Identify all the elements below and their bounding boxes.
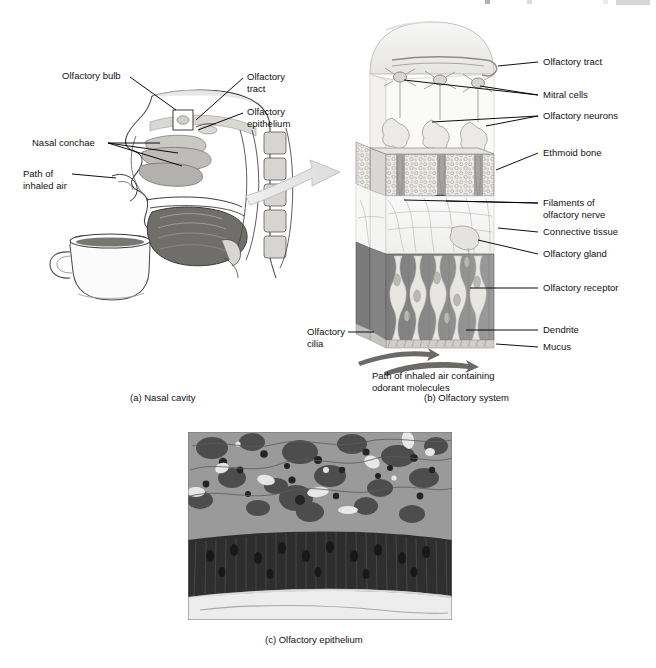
airflow-note: Path of inhaled air containing odorant m…: [372, 370, 495, 393]
label-olfactory-tract-b: Olfactory tract: [543, 56, 602, 68]
olfactory-figure: Olfactory bulb Olfactory tract Olfactory…: [0, 0, 656, 668]
label-mitral-cells: Mitral cells: [543, 89, 588, 101]
label-path-of-inhaled-air: Path of inhaled air: [23, 168, 67, 191]
label-olfactory-epithelium-a: Olfactory epithelium: [247, 106, 290, 129]
panel-b-illustration: [348, 22, 538, 376]
caption-panel-c: (c) Olfactory epithelium: [265, 634, 363, 646]
panel-a-illustration: [50, 77, 340, 300]
olfactory-epithelium-layer: [356, 242, 494, 340]
coffee-cup: [50, 234, 150, 300]
label-olfactory-receptor: Olfactory receptor: [543, 282, 619, 294]
label-olfactory-neurons: Olfactory neurons: [543, 110, 618, 122]
label-ethmoid-bone: Ethmoid bone: [543, 147, 602, 159]
label-nasal-conchae: Nasal conchae: [32, 137, 95, 149]
label-mucus: Mucus: [543, 341, 571, 353]
panel-c-micrograph: [187, 430, 452, 620]
ethmoid-bone-layer: [356, 142, 494, 196]
caption-panel-a: (a) Nasal cavity: [130, 392, 195, 404]
label-filaments-olfactory-nerve: Filaments of olfactory nerve: [543, 197, 605, 220]
label-olfactory-tract-a: Olfactory tract: [247, 71, 285, 94]
glomeruli: [382, 118, 487, 152]
caption-panel-b: (b) Olfactory system: [424, 392, 509, 404]
label-dendrite: Dendrite: [543, 324, 579, 336]
label-olfactory-cilia: Olfactory cilia: [307, 326, 345, 349]
label-olfactory-gland: Olfactory gland: [543, 248, 607, 260]
label-connective-tissue: Connective tissue: [543, 226, 618, 238]
label-olfactory-bulb: Olfactory bulb: [62, 70, 121, 82]
